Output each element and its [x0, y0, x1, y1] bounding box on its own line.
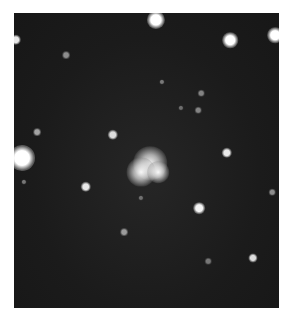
star: [33, 128, 41, 136]
star: [267, 27, 279, 43]
star: [205, 258, 212, 265]
star: [248, 253, 257, 262]
star: [14, 145, 35, 171]
star: [120, 228, 128, 236]
star: [193, 202, 205, 214]
nebula-glow: [147, 161, 169, 183]
star: [195, 107, 202, 114]
star: [159, 79, 164, 84]
star: [269, 189, 276, 196]
star: [62, 51, 70, 59]
star: [21, 179, 26, 184]
star: [178, 105, 183, 110]
star: [14, 35, 21, 45]
star: [138, 195, 143, 200]
star: [198, 90, 205, 97]
star: [81, 182, 91, 192]
star: [108, 130, 118, 140]
star: [222, 32, 238, 48]
star: [222, 148, 232, 158]
star: [147, 13, 165, 29]
star-field-photo: [14, 13, 279, 308]
